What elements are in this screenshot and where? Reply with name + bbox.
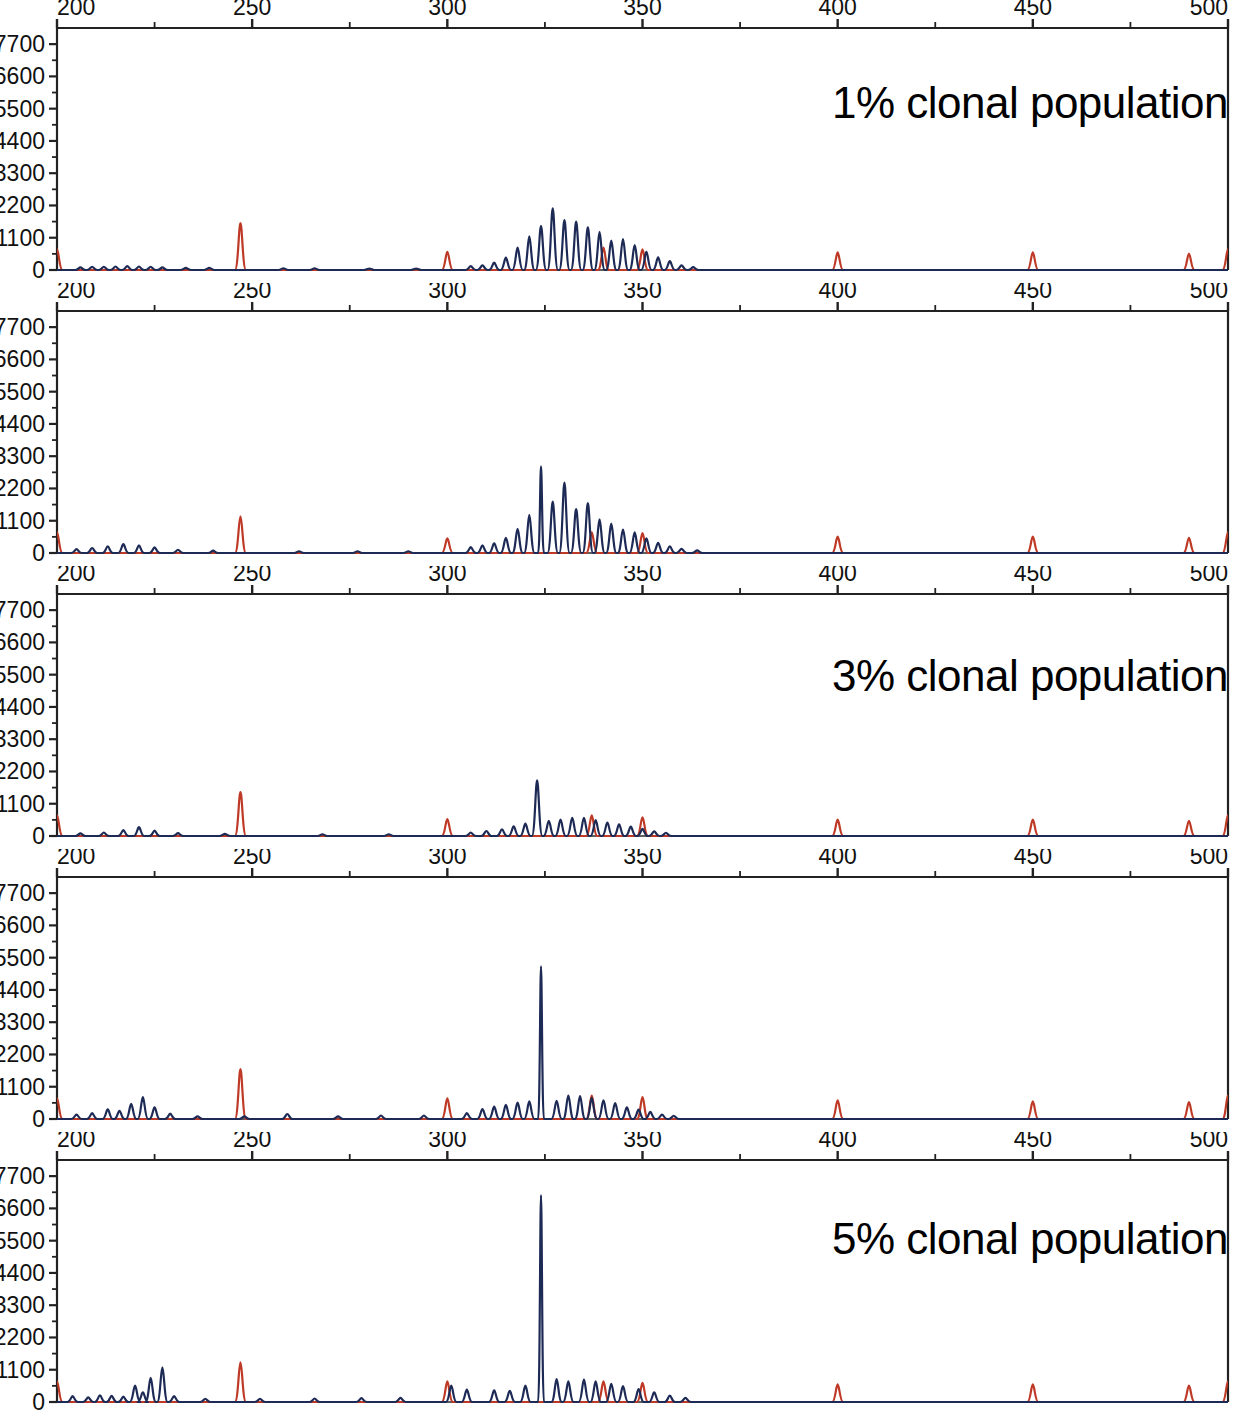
y-tick-label: 6600	[0, 912, 45, 938]
y-tick-label: 2200	[0, 1324, 45, 1350]
y-tick-label: 0	[32, 1106, 45, 1132]
y-tick-label: 7700	[0, 314, 45, 340]
x-tick-label: 200	[57, 566, 95, 586]
x-tick-label: 450	[1014, 283, 1052, 303]
panel-2: 2002503003504004505000110022003300440055…	[0, 283, 1252, 566]
x-tick-label: 300	[428, 566, 466, 586]
x-tick-label: 300	[428, 849, 466, 869]
x-tick-label: 400	[818, 0, 856, 20]
y-tick-label: 2200	[0, 192, 45, 218]
y-tick-label: 5500	[0, 379, 45, 405]
size-standard-trace	[52, 1069, 1234, 1119]
x-tick-label: 200	[57, 0, 95, 20]
y-tick-label: 0	[32, 257, 45, 283]
x-tick-label: 300	[428, 1132, 466, 1152]
y-tick-label: 1100	[0, 508, 45, 534]
x-tick-label: 350	[623, 566, 661, 586]
x-tick-label: 250	[233, 0, 271, 20]
x-tick-label: 450	[1014, 0, 1052, 20]
panel-1: 2002503003504004505000110022003300440055…	[0, 0, 1252, 283]
panel-5: 2002503003504004505000110022003300440055…	[0, 1132, 1252, 1415]
x-tick-label: 350	[623, 849, 661, 869]
y-tick-label: 3300	[0, 726, 45, 752]
panel-1-title: 1% clonal population	[832, 78, 1228, 128]
x-tick-label: 350	[623, 283, 661, 303]
sample-trace	[57, 1195, 1228, 1402]
x-tick-label: 500	[1190, 0, 1228, 20]
x-tick-label: 500	[1190, 283, 1228, 303]
y-tick-label: 7700	[0, 1163, 45, 1189]
y-tick-label: 2200	[0, 758, 45, 784]
y-tick-label: 6600	[0, 346, 45, 372]
panel-3: 2002503003504004505000110022003300440055…	[0, 566, 1252, 849]
electropherogram-figure: 2002503003504004505000110022003300440055…	[0, 0, 1252, 1424]
y-tick-label: 1100	[0, 1074, 45, 1100]
y-tick-label: 0	[32, 1389, 45, 1415]
x-tick-label: 200	[57, 283, 95, 303]
size-standard-trace	[52, 516, 1234, 553]
x-tick-label: 400	[818, 1132, 856, 1152]
sample-trace	[57, 466, 1228, 553]
y-tick-label: 6600	[0, 629, 45, 655]
x-tick-label: 300	[428, 0, 466, 20]
y-tick-label: 5500	[0, 662, 45, 688]
x-tick-label: 450	[1014, 849, 1052, 869]
panel-4-plot: 2002503003504004505000110022003300440055…	[0, 849, 1252, 1132]
x-tick-label: 500	[1190, 1132, 1228, 1152]
y-tick-label: 2200	[0, 1041, 45, 1067]
y-tick-label: 4400	[0, 694, 45, 720]
y-tick-label: 4400	[0, 411, 45, 437]
y-tick-label: 3300	[0, 443, 45, 469]
x-tick-label: 200	[57, 1132, 95, 1152]
y-tick-label: 5500	[0, 1228, 45, 1254]
x-tick-label: 250	[233, 849, 271, 869]
y-tick-label: 4400	[0, 128, 45, 154]
sample-trace	[57, 208, 1228, 270]
size-standard-trace	[52, 223, 1234, 270]
x-tick-label: 500	[1190, 566, 1228, 586]
y-tick-label: 3300	[0, 160, 45, 186]
panel-3-plot: 2002503003504004505000110022003300440055…	[0, 566, 1252, 849]
y-tick-label: 1100	[0, 791, 45, 817]
panel-4: 2002503003504004505000110022003300440055…	[0, 849, 1252, 1132]
panel-1-plot: 2002503003504004505000110022003300440055…	[0, 0, 1252, 283]
size-standard-trace	[52, 1362, 1234, 1402]
y-tick-label: 0	[32, 823, 45, 849]
x-tick-label: 450	[1014, 1132, 1052, 1152]
y-tick-label: 1100	[0, 1357, 45, 1383]
y-tick-label: 1100	[0, 225, 45, 251]
x-tick-label: 250	[233, 283, 271, 303]
x-tick-label: 200	[57, 849, 95, 869]
y-tick-label: 2200	[0, 475, 45, 501]
y-tick-label: 7700	[0, 597, 45, 623]
y-tick-label: 4400	[0, 977, 45, 1003]
y-tick-label: 5500	[0, 96, 45, 122]
y-tick-label: 6600	[0, 63, 45, 89]
y-tick-label: 7700	[0, 31, 45, 57]
y-tick-label: 7700	[0, 880, 45, 906]
sample-trace	[57, 780, 1228, 836]
x-tick-label: 300	[428, 283, 466, 303]
y-tick-label: 6600	[0, 1195, 45, 1221]
x-tick-label: 400	[818, 566, 856, 586]
y-tick-label: 4400	[0, 1260, 45, 1286]
panel-5-plot: 2002503003504004505000110022003300440055…	[0, 1132, 1252, 1415]
y-tick-label: 0	[32, 540, 45, 566]
y-tick-label: 3300	[0, 1292, 45, 1318]
x-tick-label: 350	[623, 0, 661, 20]
y-tick-label: 5500	[0, 945, 45, 971]
y-tick-label: 3300	[0, 1009, 45, 1035]
x-tick-label: 450	[1014, 566, 1052, 586]
x-tick-label: 250	[233, 1132, 271, 1152]
panel-2-plot: 2002503003504004505000110022003300440055…	[0, 283, 1252, 566]
x-tick-label: 400	[818, 849, 856, 869]
x-tick-label: 250	[233, 566, 271, 586]
x-tick-label: 350	[623, 1132, 661, 1152]
x-tick-label: 500	[1190, 849, 1228, 869]
x-tick-label: 400	[818, 283, 856, 303]
